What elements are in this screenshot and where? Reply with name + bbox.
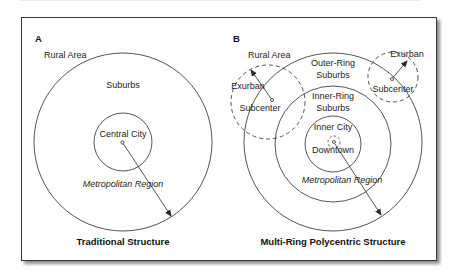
downtown-center-point: [333, 141, 336, 144]
panel-a-caption: Traditional Structure: [77, 236, 170, 247]
left-subcenter-point: [271, 99, 274, 102]
outer-ring-label-line2: Suburbs: [316, 70, 350, 80]
outer-ring-label-line1: Outer-Ring: [311, 58, 355, 68]
suburbs-label: Suburbs: [106, 80, 140, 90]
metropolitan-region-label: Metropolitan Region: [83, 179, 164, 189]
inner-city-label: Inner City: [314, 122, 353, 132]
diagram-canvas: A Rural Area Suburbs Central City Metrop…: [0, 0, 458, 278]
rural-area-label-b: Rural Area: [248, 50, 291, 60]
center-point: [121, 141, 124, 144]
downtown-label: Downtown: [312, 145, 354, 155]
left-subcenter-dashed-ring: [231, 65, 305, 139]
right-subcenter-label: Subcenter: [372, 84, 413, 94]
panel-b-caption: Multi-Ring Polycentric Structure: [260, 236, 405, 247]
left-exurban-label: Exurban: [231, 81, 265, 91]
right-subcenter-point: [391, 78, 394, 81]
rural-area-label: Rural Area: [44, 50, 87, 60]
panel-a-letter: A: [35, 33, 42, 44]
inner-ring-label-line2: Suburbs: [316, 103, 350, 113]
inner-ring-label-line1: Inner-Ring: [312, 91, 354, 101]
panel-b: B Rural Area Outer-Ring Suburbs Inner-Ri…: [231, 33, 424, 247]
panel-b-letter: B: [233, 33, 240, 44]
right-subcenter-arrow: [393, 61, 407, 78]
metropolitan-region-label-b: Metropolitan Region: [302, 175, 383, 185]
right-exurban-label: Exurban: [390, 49, 424, 59]
central-city-label: Central City: [99, 129, 147, 139]
left-subcenter-label: Subcenter: [239, 103, 280, 113]
panel-a: A Rural Area Suburbs Central City Metrop…: [34, 33, 212, 247]
